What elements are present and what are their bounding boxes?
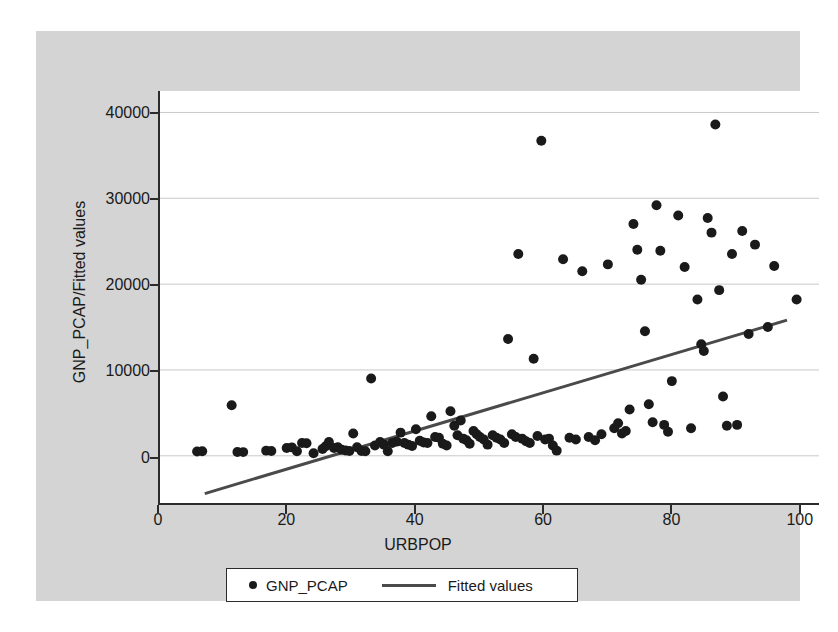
scatter-point: [227, 400, 237, 410]
scatter-point: [722, 421, 732, 431]
scatter-point: [703, 213, 713, 223]
scatter-point: [750, 240, 760, 250]
scatter-point: [360, 446, 370, 456]
y-tick-label: 0: [141, 449, 150, 467]
scatter-point: [680, 262, 690, 272]
legend-label-fitted-values: Fitted values: [448, 577, 533, 594]
scatter-point: [667, 376, 677, 386]
y-tick-label: 40000: [106, 104, 151, 122]
scatter-point: [266, 446, 276, 456]
scatter-point: [596, 429, 606, 439]
legend-label-gnp-pcap: GNP_PCAP: [266, 577, 348, 594]
scatter-point: [707, 228, 717, 238]
scatter-point: [292, 446, 302, 456]
scatter-point: [411, 424, 421, 434]
scatter-point: [613, 418, 623, 428]
y-tick-label: 10000: [106, 362, 151, 380]
scatter-point: [710, 119, 720, 129]
scatter-point: [692, 295, 702, 305]
scatter-point: [499, 438, 509, 448]
scatter-point: [603, 259, 613, 269]
x-tick-mark: [670, 505, 672, 514]
scatter-point: [621, 426, 631, 436]
scatter-point: [737, 226, 747, 236]
scatter-point: [513, 249, 523, 259]
legend-dot-marker-icon: [249, 581, 257, 589]
scatter-point: [640, 326, 650, 336]
scatter-point: [763, 322, 773, 332]
y-tick-mark: [150, 198, 159, 200]
scatter-point: [673, 210, 683, 220]
y-tick-mark: [150, 370, 159, 372]
y-tick-mark: [150, 457, 159, 459]
x-tick-mark: [157, 505, 159, 514]
scatter-point: [625, 404, 635, 414]
plot-svg: [160, 91, 819, 503]
scatter-point: [238, 447, 248, 457]
scatter-point: [636, 275, 646, 285]
scatter-point: [552, 446, 562, 456]
scatter-point: [426, 411, 436, 421]
x-tick-mark: [799, 505, 801, 514]
scatter-point: [396, 428, 406, 438]
scatter-point: [686, 423, 696, 433]
scatter-point: [445, 406, 455, 416]
scatter-point: [456, 416, 466, 426]
scatter-point: [558, 254, 568, 264]
y-tick-label: 30000: [106, 190, 151, 208]
scatter-point: [577, 266, 587, 276]
scatter-point: [792, 295, 802, 305]
scatter-point: [744, 329, 754, 339]
scatter-point: [503, 334, 513, 344]
scatter-point: [465, 439, 475, 449]
y-tick-mark: [150, 284, 159, 286]
scatter-point: [644, 399, 654, 409]
scatter-point: [302, 438, 312, 448]
scatter-point: [714, 285, 724, 295]
scatter-point: [652, 200, 662, 210]
scatter-point: [571, 435, 581, 445]
scatter-point: [483, 440, 493, 450]
scatter-point: [525, 438, 535, 448]
graph-region: GNP_PCAP/Fitted values 01000020000300004…: [36, 31, 800, 601]
scatter-point: [732, 420, 742, 430]
scatter-point: [648, 417, 658, 427]
y-tick-mark: [150, 112, 159, 114]
scatter-point: [197, 446, 207, 456]
gridlines: [160, 112, 819, 455]
scatter-point: [628, 219, 638, 229]
x-tick-mark: [542, 505, 544, 514]
scatter-point: [348, 428, 358, 438]
scatter-point: [632, 245, 642, 255]
x-axis-tick-labels: 020406080100: [36, 511, 800, 537]
scatter-point: [536, 136, 546, 146]
scatter-point: [442, 441, 452, 451]
figure: GNP_PCAP/Fitted values 01000020000300004…: [0, 0, 838, 632]
y-tick-label: 20000: [106, 276, 151, 294]
scatter-point: [529, 354, 539, 364]
scatter-point: [383, 446, 393, 456]
chart-legend: GNP_PCAP Fitted values: [226, 568, 578, 602]
x-axis-title: URBPOP: [36, 536, 800, 554]
scatter-point: [366, 374, 376, 384]
scatter-point: [309, 448, 319, 458]
legend-entry-gnp-pcap: GNP_PCAP: [249, 577, 348, 594]
scatter-point: [727, 249, 737, 259]
scatter-point: [699, 346, 709, 356]
scatter-point: [663, 427, 673, 437]
legend-entry-fitted-values: Fitted values: [382, 577, 533, 594]
scatter-point: [655, 246, 665, 256]
scatter-point: [769, 261, 779, 271]
scatter-point: [718, 392, 728, 402]
legend-line-marker-icon: [382, 584, 436, 587]
x-tick-mark: [414, 505, 416, 514]
x-tick-mark: [285, 505, 287, 514]
plot-area: [158, 91, 819, 505]
